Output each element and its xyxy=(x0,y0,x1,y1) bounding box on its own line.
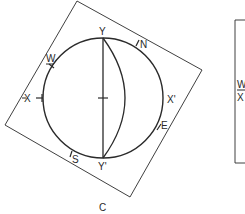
label-y-prime: Y' xyxy=(98,161,107,172)
tick-n xyxy=(136,40,139,46)
tick-x xyxy=(36,94,43,102)
label-x-prime: X' xyxy=(167,94,176,105)
stereonet-diagram: Y Y' X X' N E S W C W X xyxy=(0,0,245,214)
label-y: Y xyxy=(99,26,106,37)
figure-caption: C xyxy=(99,202,106,213)
label-s: S xyxy=(72,154,79,165)
label-w: W xyxy=(46,53,56,64)
label-n: N xyxy=(140,39,147,50)
adjacent-label-x: X xyxy=(237,92,244,103)
label-e: E xyxy=(161,120,168,131)
adjacent-panel: W X xyxy=(235,20,245,163)
adjacent-label-w: W xyxy=(237,79,245,90)
